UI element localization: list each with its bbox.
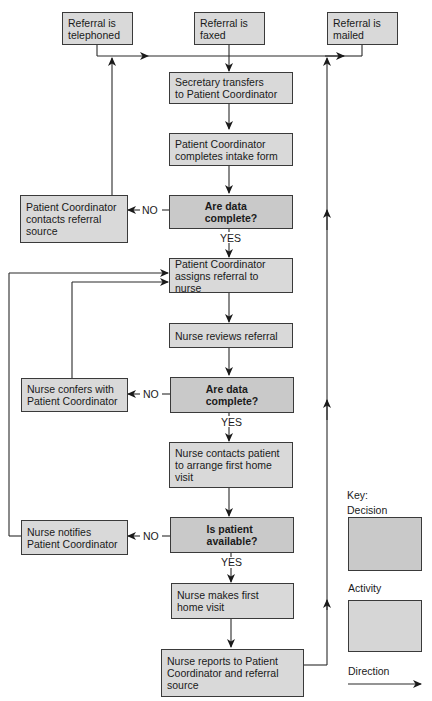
node-intake-form: Patient Coordinator completes intake for… [169,133,293,166]
node-label: Nurse notifies Patient Coordinator [27,526,117,550]
yes-label-2: YES [221,416,242,428]
node-nurse-confers: Nurse confers with Patient Coordinator [21,378,128,412]
source-telephoned: Referral is telephoned [62,12,133,45]
node-pc-contacts-source: Patient Coordinator contacts referral so… [20,195,128,243]
node-label: Nurse reports to Patient Coordinator and… [167,655,278,691]
key-decision-label: Decision [347,504,387,516]
decision-data-complete-1: Are data complete? [169,195,293,229]
decision-label: Is patient available? [207,523,258,547]
node-label: Patient Coordinator assigns referral to … [175,258,287,294]
node-label: Nurse makes first home visit [177,589,259,613]
node-label: Secretary transfers to Patient Coordinat… [175,76,277,100]
key-activity-swatch [348,600,422,652]
decision-label: Are data complete? [206,383,259,407]
decision-label: Are data complete? [205,200,258,224]
source-mailed: Referral is mailed [327,12,398,45]
key-decision-swatch [348,517,422,571]
node-label: Patient Coordinator completes intake for… [175,138,278,162]
source-mailed-label: Referral is mailed [333,17,381,41]
node-nurse-reports: Nurse reports to Patient Coordinator and… [161,649,304,697]
key-activity-label: Activity [348,582,381,594]
decision-patient-available: Is patient available? [170,517,294,553]
node-label: Patient Coordinator contacts referral so… [26,201,116,237]
decision-data-complete-2: Are data complete? [170,377,294,413]
key-direction-label: Direction [348,665,389,677]
node-assign-referral: Patient Coordinator assigns referral to … [169,258,293,293]
node-nurse-notifies: Nurse notifies Patient Coordinator [21,520,128,555]
node-secretary-transfers: Secretary transfers to Patient Coordinat… [169,72,293,104]
node-nurse-reviews: Nurse reviews referral [169,323,293,348]
key-title: Key: [347,489,368,501]
source-faxed-label: Referral is faxed [200,17,248,41]
no-label-1: NO [142,204,158,216]
source-faxed: Referral is faxed [194,12,265,45]
node-label: Nurse reviews referral [175,330,278,342]
no-label-2: NO [143,388,159,400]
node-nurse-contacts-patient: Nurse contacts patient to arrange first … [169,442,293,488]
no-label-3: NO [143,530,159,542]
node-label: Nurse contacts patient to arrange first … [175,447,279,483]
source-telephoned-label: Referral is telephoned [68,17,120,41]
node-label: Nurse confers with Patient Coordinator [27,383,117,407]
yes-label-1: YES [220,232,241,244]
node-first-home-visit: Nurse makes first home visit [171,583,294,619]
yes-label-3: YES [221,556,242,568]
